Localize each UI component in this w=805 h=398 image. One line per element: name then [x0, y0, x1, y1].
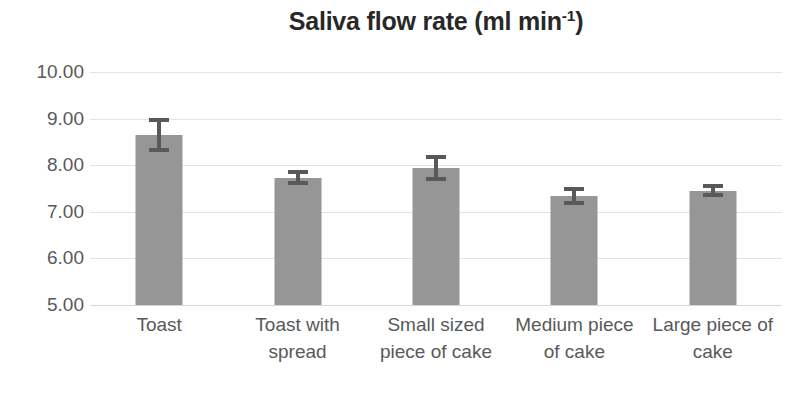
x-axis-tick-label: Large piece ofcake	[644, 311, 782, 365]
bar-group	[228, 72, 366, 305]
chart-title-tail: )	[575, 7, 583, 35]
bar	[136, 135, 183, 305]
error-bar-cap-bottom	[564, 201, 584, 205]
error-bar-cap-top	[564, 187, 584, 191]
gridline	[90, 305, 782, 306]
chart-title: Saliva flow rate (ml min-1)	[90, 7, 782, 36]
error-bar	[703, 184, 723, 197]
error-bar-cap-bottom	[149, 148, 169, 152]
x-axis-tick-label: Toast withspread	[228, 311, 366, 365]
y-axis-tick-label: 7.00	[6, 201, 84, 223]
y-axis-tick-label: 5.00	[6, 294, 84, 316]
error-bar	[149, 118, 169, 152]
bar	[689, 191, 736, 305]
bar-group	[644, 72, 782, 305]
x-axis-tick-label-line: Toast	[90, 311, 228, 338]
x-axis-tick-label-line: Toast with	[228, 311, 366, 338]
error-bar	[288, 170, 308, 185]
chart-title-superscript: -1	[562, 7, 575, 24]
x-axis: ToastToast withspreadSmall sizedpiece of…	[90, 311, 782, 391]
x-axis-tick-label-line: Medium piece	[505, 311, 643, 338]
chart-title-main: Saliva flow rate (ml min	[289, 7, 562, 35]
error-bar	[426, 155, 446, 181]
error-bar	[564, 187, 584, 206]
x-axis-tick-label: Toast	[90, 311, 228, 338]
y-axis: 10.009.008.007.006.005.00	[0, 72, 84, 305]
bar	[412, 168, 459, 305]
plot-area	[90, 72, 782, 305]
bar-group	[505, 72, 643, 305]
bar-group	[367, 72, 505, 305]
bar-group	[90, 72, 228, 305]
x-axis-tick-label-line: cake	[644, 338, 782, 365]
x-axis-tick-label-line: Large piece of	[644, 311, 782, 338]
x-axis-tick-label-line: spread	[228, 338, 366, 365]
chart-screenshot: Saliva flow rate (ml min-1) 10.009.008.0…	[0, 0, 805, 398]
error-bar-stem	[157, 118, 161, 152]
y-axis-tick-label: 10.00	[6, 61, 84, 83]
y-axis-tick-label: 9.00	[6, 108, 84, 130]
error-bar-cap-top	[426, 155, 446, 159]
x-axis-tick-label-line: of cake	[505, 338, 643, 365]
error-bar-cap-top	[149, 118, 169, 122]
y-axis-tick-label: 6.00	[6, 247, 84, 269]
y-axis-tick-label: 8.00	[6, 154, 84, 176]
bar	[551, 196, 598, 305]
x-axis-tick-label: Small sizedpiece of cake	[367, 311, 505, 365]
error-bar-cap-bottom	[426, 177, 446, 181]
x-axis-tick-label-line: piece of cake	[367, 338, 505, 365]
bar	[274, 178, 321, 305]
error-bar-cap-top	[288, 170, 308, 174]
x-axis-tick-label: Medium pieceof cake	[505, 311, 643, 365]
x-axis-tick-label-line: Small sized	[367, 311, 505, 338]
error-bar-cap-top	[703, 184, 723, 188]
error-bar-cap-bottom	[288, 181, 308, 185]
error-bar-cap-bottom	[703, 193, 723, 197]
